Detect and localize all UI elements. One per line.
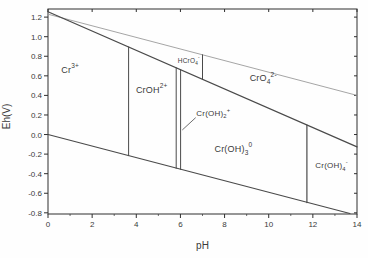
y-axis-title: Eh(V) — [1, 86, 12, 148]
y-tick-label: 1.0 — [31, 33, 43, 42]
cr3-label: Cr3+ — [61, 62, 79, 75]
y-tick-label: -0.8 — [28, 209, 42, 218]
x-tick-label: 8 — [222, 220, 227, 229]
croh2-label: CrOH2+ — [136, 82, 168, 95]
x-tick-label: 14 — [353, 220, 362, 229]
y-tick-label: -0.2 — [28, 150, 42, 159]
h2-water-line — [48, 135, 350, 214]
x-tick-label: 6 — [178, 220, 183, 229]
croh3-label: Cr(OH)30 — [214, 141, 252, 156]
chart-canvas: 024681012141.21.00.80.60.40.20.0-0.2-0.4… — [0, 0, 368, 258]
y-tick-label: 0.0 — [31, 131, 43, 140]
y-tick-label: 0.6 — [31, 72, 43, 81]
y-tick-label: 1.2 — [31, 13, 43, 22]
croh2plus-leader-line — [183, 118, 196, 130]
x-tick-label: 10 — [264, 220, 273, 229]
x-tick-label: 4 — [134, 220, 139, 229]
cro4-label: CrO42- — [250, 71, 277, 86]
x-tick-label: 0 — [46, 220, 51, 229]
croh2plus-label: Cr(OH)2+ — [196, 107, 230, 120]
hcro4-label: HCrO4- — [178, 55, 200, 65]
x-tick-label: 12 — [308, 220, 317, 229]
y-tick-label: -0.6 — [28, 189, 42, 198]
y-tick-label: 0.4 — [31, 91, 43, 100]
x-tick-label: 2 — [90, 220, 95, 229]
pourbaix-diagram: 024681012141.21.00.80.60.40.20.0-0.2-0.4… — [0, 0, 368, 258]
tick-labels: 024681012141.21.00.80.60.40.20.0-0.2-0.4… — [28, 13, 362, 229]
y-tick-label: 0.2 — [31, 111, 43, 120]
y-tick-label: 0.8 — [31, 52, 43, 61]
x-axis-title: pH — [182, 240, 223, 251]
croh4-label: Cr(OH)4- — [315, 159, 348, 172]
y-tick-label: -0.4 — [28, 170, 42, 179]
